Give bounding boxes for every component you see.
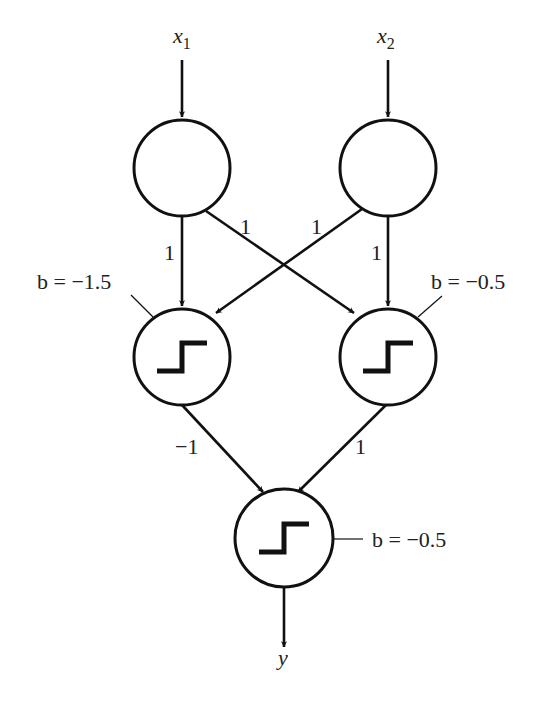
weight-h2-y: 1: [355, 434, 366, 459]
edge-h2-y: [298, 405, 386, 492]
weight-x2-h1: 1: [311, 214, 322, 239]
weight-x1-h2: 1: [240, 214, 251, 239]
weight-h1-y: −1: [175, 434, 198, 459]
edge-x1-h2: [206, 211, 354, 313]
input-label-x1: x1: [172, 23, 191, 52]
bias-pointer-h2: [418, 296, 442, 317]
edge-x2-h1: [216, 209, 362, 313]
bias-label-y: b = −0.5: [372, 527, 446, 552]
input-node-x1: [134, 120, 230, 216]
weight-x2-h2: 1: [371, 240, 382, 265]
bias-label-h2: b = −0.5: [431, 269, 505, 294]
bias-pointer-h1: [131, 295, 153, 317]
bias-label-h1: b = −1.5: [37, 269, 111, 294]
xor-network-diagram: x1 x2 1 1 1 1 b = −1.5 b = −0.5 −1 1 b =…: [0, 0, 550, 702]
output-label-y: y: [276, 645, 288, 670]
input-node-x2: [340, 120, 436, 216]
weight-x1-h1: 1: [164, 240, 175, 265]
input-label-x2: x2: [376, 23, 395, 52]
